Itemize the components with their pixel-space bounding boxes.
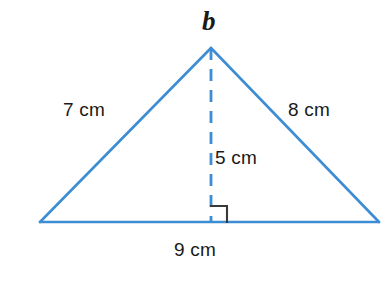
geometry-figure: b 7 cm 8 cm 5 cm 9 cm	[0, 0, 385, 290]
right-angle-marker	[211, 206, 227, 222]
right-side-length-label: 8 cm	[288, 100, 330, 119]
triangle-side-left	[40, 48, 211, 222]
altitude-length-label: 5 cm	[215, 148, 257, 167]
left-side-length-label: 7 cm	[63, 100, 105, 119]
base-length-label: 9 cm	[174, 240, 216, 259]
apex-vertex-label: b	[202, 8, 216, 35]
triangle-side-right	[211, 48, 379, 222]
